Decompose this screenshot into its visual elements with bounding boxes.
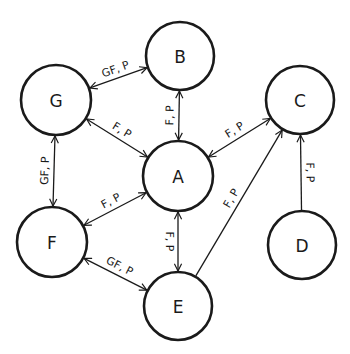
node-label: C [294,91,306,111]
edge-g-b: GF, P [90,58,147,88]
edge-label: F, P [221,186,243,210]
edge-g-f: GF, P [38,136,55,206]
edge-label: F, P [163,232,176,252]
node-label: F [47,233,57,253]
node-label: B [174,47,186,67]
edge-g-a: F, P [87,119,148,157]
edge-a-c: F, P [209,119,271,157]
node-d: D [268,211,336,279]
edge-label: GF, P [38,156,52,185]
node-g: G [21,65,91,135]
nodes-layer: ABCDEFG [17,22,336,340]
edge-label: F, P [110,120,134,142]
edge-label: F, P [303,162,316,182]
edge-label: F, P [163,105,176,126]
node-c: C [266,66,334,134]
node-a: A [143,141,213,211]
edge-line [300,135,301,210]
node-label: A [172,167,184,187]
node-label: G [49,91,62,111]
edge-b-a: F, P [163,91,179,140]
node-f: F [17,207,87,277]
edge-line [53,136,55,206]
edge-f-e: GF, P [84,254,147,290]
edge-label: F, P [223,119,247,141]
edge-d-c: F, P [300,135,316,210]
node-e: E [144,272,212,340]
node-label: D [295,236,308,256]
edge-label: GF, P [100,58,132,80]
edge-f-a: F, P [84,190,146,225]
edge-label: GF, P [104,254,136,279]
node-label: E [173,297,184,317]
edge-line [179,91,180,140]
node-b: B [146,22,214,90]
relationship-graph: GF, PF, PF, PF, PGF, PF, PF, PGF, PF, PF… [0,0,350,354]
edge-a-e: F, P [163,212,179,271]
edge-label: F, P [99,190,123,211]
